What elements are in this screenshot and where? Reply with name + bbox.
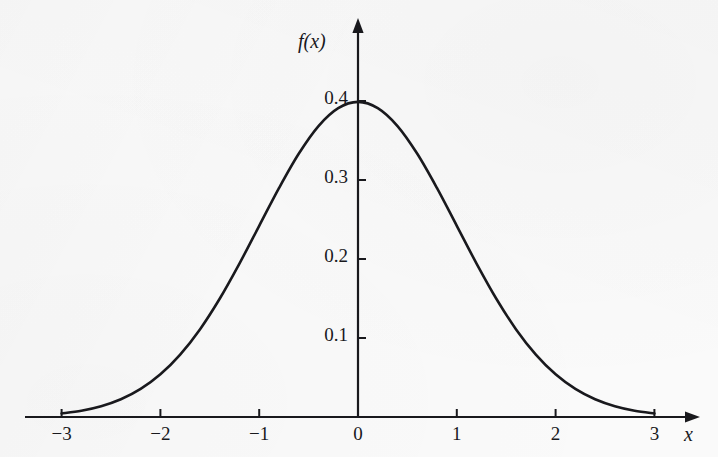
figure-normal-distribution: f(x) x −3−2−101230.10.20.30.4 <box>0 0 718 457</box>
y-axis-arrowhead <box>352 18 363 33</box>
plot-canvas <box>0 0 718 457</box>
y-axis-tick-label: 0.3 <box>290 166 348 188</box>
y-axis-label: f(x) <box>298 30 326 53</box>
x-axis-tick-label: 3 <box>624 423 684 445</box>
x-axis-tick-label: 0 <box>328 423 388 445</box>
y-axis-tick-label: 0.1 <box>290 324 348 346</box>
x-axis-tick-label: −1 <box>229 423 289 445</box>
x-axis-label: x <box>684 423 693 446</box>
x-axis-arrowhead <box>685 411 700 422</box>
x-axis-tick-label: −2 <box>130 423 190 445</box>
x-axis-tick-label: 1 <box>427 423 487 445</box>
x-axis-tick-label: −3 <box>32 423 92 445</box>
y-axis-tick-label: 0.4 <box>290 87 348 109</box>
y-axis-tick-label: 0.2 <box>290 245 348 267</box>
x-axis-tick-label: 2 <box>526 423 586 445</box>
